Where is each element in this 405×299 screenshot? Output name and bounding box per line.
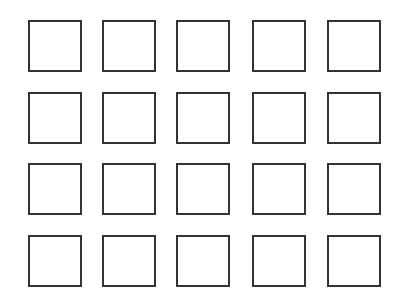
square-grid xyxy=(0,0,405,299)
grid-square-r4-c2 xyxy=(102,235,156,287)
grid-square-r1-c1 xyxy=(28,20,82,72)
grid-square-r2-c2 xyxy=(102,92,156,144)
grid-square-r4-c1 xyxy=(28,235,82,287)
grid-square-r2-c4 xyxy=(252,92,306,144)
grid-square-r4-c3 xyxy=(176,235,230,287)
grid-square-r3-c4 xyxy=(252,163,306,215)
grid-square-r3-c1 xyxy=(28,163,82,215)
grid-square-r4-c4 xyxy=(252,235,306,287)
grid-square-r1-c3 xyxy=(176,20,230,72)
grid-square-r1-c4 xyxy=(252,20,306,72)
grid-square-r2-c3 xyxy=(176,92,230,144)
grid-square-r3-c2 xyxy=(102,163,156,215)
grid-square-r3-c5 xyxy=(327,163,381,215)
grid-square-r2-c5 xyxy=(327,92,381,144)
grid-square-r3-c3 xyxy=(176,163,230,215)
grid-square-r1-c2 xyxy=(102,20,156,72)
grid-square-r4-c5 xyxy=(327,235,381,287)
grid-square-r2-c1 xyxy=(28,92,82,144)
grid-square-r1-c5 xyxy=(327,20,381,72)
